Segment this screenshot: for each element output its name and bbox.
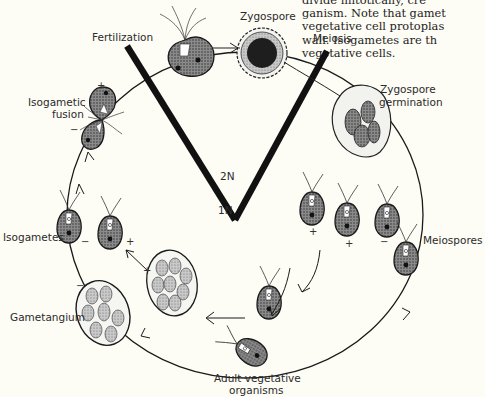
zygospore xyxy=(237,28,287,78)
label-meiosis: Meiosis xyxy=(313,32,352,44)
mating-sign-plus: + xyxy=(143,265,151,276)
meiospore-cell xyxy=(300,172,324,225)
dividing-cell-sporangium xyxy=(142,246,203,320)
label-meiospores: Meiospores xyxy=(423,234,482,246)
label-zygospore-germination-line2: germination xyxy=(379,96,443,108)
label-isogametic-fusion-line2: fusion xyxy=(52,108,84,120)
mating-sign-plus: + xyxy=(126,236,134,247)
label-gametangium: Gametangium xyxy=(10,311,85,323)
mating-sign-minus: − xyxy=(81,236,89,247)
mating-sign-plus: + xyxy=(345,238,353,249)
mating-sign-plus: + xyxy=(309,226,317,237)
isogamete-plus xyxy=(98,196,122,249)
vegetative-cell xyxy=(214,323,272,370)
label-zygospore-germination-line1: Zygospore xyxy=(380,83,436,95)
label-fertilization: Fertilization xyxy=(92,31,153,43)
meiospore-cell xyxy=(375,184,399,237)
mating-sign-plus: + xyxy=(97,80,105,91)
mating-sign-minus: − xyxy=(380,236,388,247)
label-isogametic-fusion-line1: Isogametic xyxy=(28,96,86,108)
mating-sign-minus: − xyxy=(76,280,84,291)
label-ploidy-2n: 2N xyxy=(220,170,235,182)
label-isogametes: Isogametes xyxy=(3,231,64,243)
label-ploidy-1n: 1N xyxy=(218,204,233,216)
meiospore-cell xyxy=(335,183,359,236)
chlamydomonas-life-cycle-diagram: divide mitotically, cre ganism. Note tha… xyxy=(0,0,485,397)
diagram-artwork xyxy=(0,0,485,397)
isogametic-fusion-pair xyxy=(80,87,124,149)
mating-sign-minus: − xyxy=(70,124,78,135)
label-zygospore: Zygospore xyxy=(240,10,296,22)
zygote-cell xyxy=(160,6,240,76)
label-adult-vegetative-line2: organisms xyxy=(229,384,283,396)
ploidy-divider-v xyxy=(127,46,327,220)
label-adult-vegetative-line1: Adult vegetative xyxy=(214,372,301,384)
